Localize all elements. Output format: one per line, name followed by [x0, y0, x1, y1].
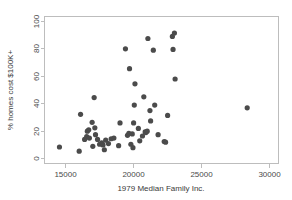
- data-point: [152, 103, 157, 108]
- data-point: [90, 120, 95, 125]
- y-tick-label: 100: [32, 14, 41, 28]
- y-tick-label: 80: [32, 44, 41, 53]
- x-axis-ticks: 15000200002500030000: [54, 164, 281, 179]
- data-point: [87, 135, 92, 140]
- data-point: [245, 105, 250, 110]
- data-point: [100, 142, 105, 147]
- y-axis-title: % homes cost $100K+: [6, 50, 15, 131]
- data-point: [78, 112, 83, 117]
- y-tick-label: 0: [32, 156, 41, 161]
- x-tick-label: 25000: [190, 170, 213, 179]
- y-tick-label: 60: [32, 72, 41, 81]
- x-tick-label: 30000: [258, 170, 281, 179]
- data-point: [148, 118, 153, 123]
- x-axis-title: 1979 Median Family Inc.: [117, 184, 204, 193]
- data-point: [145, 36, 150, 41]
- data-point: [147, 108, 152, 113]
- plot-frame: [45, 17, 279, 164]
- data-point: [111, 135, 116, 140]
- data-point: [172, 30, 177, 35]
- data-point: [92, 125, 97, 130]
- y-tick-label: 40: [32, 99, 41, 108]
- data-point: [132, 103, 137, 108]
- data-point: [145, 129, 150, 134]
- data-point: [151, 48, 156, 53]
- data-point: [123, 46, 128, 51]
- y-axis-ticks: 020406080100: [32, 14, 45, 160]
- data-point: [86, 127, 91, 132]
- data-point: [92, 95, 97, 100]
- data-point: [102, 147, 107, 152]
- data-point: [117, 120, 122, 125]
- data-point: [136, 126, 141, 131]
- data-point: [131, 120, 136, 125]
- data-point: [165, 113, 170, 118]
- x-tick-label: 20000: [122, 170, 145, 179]
- data-point: [90, 144, 95, 149]
- data-point: [156, 132, 161, 137]
- data-points-layer: [57, 30, 250, 153]
- data-point: [173, 76, 178, 81]
- y-tick-label: 20: [32, 127, 41, 136]
- data-point: [127, 66, 132, 71]
- data-point: [130, 145, 135, 150]
- data-point: [95, 137, 100, 142]
- data-point: [93, 132, 98, 137]
- data-point: [106, 141, 111, 146]
- data-point: [77, 149, 82, 154]
- data-point: [116, 143, 121, 148]
- data-point: [141, 94, 146, 99]
- scatter-chart: 15000200002500030000 020406080100 1979 M…: [0, 0, 292, 200]
- data-point: [130, 131, 135, 136]
- chart-canvas: 15000200002500030000 020406080100 1979 M…: [0, 0, 292, 200]
- data-point: [132, 81, 137, 86]
- data-point: [137, 138, 142, 143]
- x-tick-label: 15000: [54, 170, 77, 179]
- data-point: [163, 140, 168, 145]
- data-point: [170, 47, 175, 52]
- data-point: [57, 144, 62, 149]
